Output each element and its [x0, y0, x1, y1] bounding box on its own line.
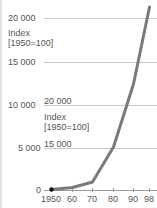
ghost-title-line2: [1950=100] — [44, 122, 89, 132]
ytick-10000: 10 000 — [8, 100, 36, 110]
ytick-5000: 5 000 — [18, 143, 41, 153]
start-point-marker — [49, 187, 53, 191]
y-axis-title-line1: Index — [8, 28, 31, 38]
xtick-90: 90 — [128, 194, 138, 204]
y-axis-title-line2: [1950=100] — [8, 38, 53, 48]
chart-frame: 20 000 Index [1950=100] 15 000 10 000 5 … — [0, 0, 157, 208]
xtick-60: 60 — [67, 194, 77, 204]
ghost-tick-15000: 15 000 — [44, 139, 72, 149]
xtick-1950: 1950 — [41, 194, 61, 204]
xtick-98: 98 — [144, 194, 154, 204]
xtick-80: 80 — [108, 194, 118, 204]
xtick-70: 70 — [87, 194, 97, 204]
ytick-20000: 20 000 — [8, 13, 36, 23]
line-chart: 20 000 Index [1950=100] 15 000 10 000 5 … — [0, 0, 157, 208]
ytick-15000: 15 000 — [8, 57, 36, 67]
ghost-tick-20000: 20 000 — [44, 96, 72, 106]
ghost-title-line1: Index — [44, 112, 67, 122]
